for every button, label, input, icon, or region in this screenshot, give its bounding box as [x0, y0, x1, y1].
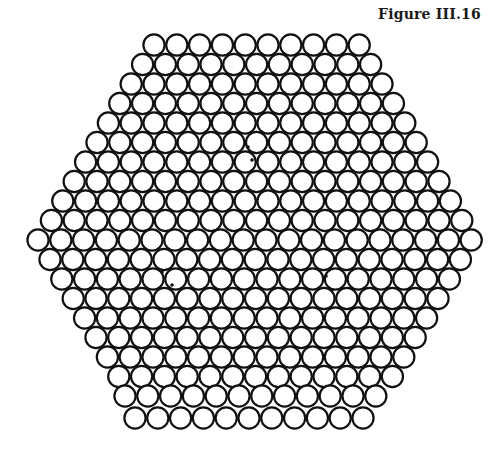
defect-mark [330, 288, 334, 292]
bubble [349, 112, 370, 133]
bubble [199, 366, 220, 387]
bubble [96, 229, 117, 250]
bubble [291, 327, 312, 348]
bubble [326, 34, 347, 55]
bubble [301, 229, 322, 250]
bubble [132, 54, 153, 75]
bubble [405, 327, 426, 348]
bubble [291, 288, 312, 309]
bubble [314, 132, 335, 153]
bubble [222, 366, 243, 387]
bubble [211, 346, 232, 367]
bubble [268, 366, 289, 387]
bubble [314, 171, 335, 192]
bubble [427, 249, 448, 270]
bubble [257, 151, 278, 172]
bubble [360, 171, 381, 192]
bubble [349, 151, 370, 172]
bubble [292, 171, 313, 192]
bubble [417, 151, 438, 172]
bubble [349, 73, 370, 94]
bubble [393, 307, 414, 328]
bubble [141, 229, 162, 250]
bubble [406, 171, 427, 192]
bubble [336, 327, 357, 348]
bubble [428, 171, 449, 192]
bubble [228, 385, 249, 406]
bubble [124, 407, 145, 428]
bubble [137, 385, 158, 406]
bubble [212, 73, 233, 94]
bubble [155, 171, 176, 192]
bubble [223, 54, 244, 75]
bubble [302, 307, 323, 328]
bubble [438, 229, 459, 250]
bubble [313, 249, 334, 270]
bubble [235, 151, 256, 172]
bubble [359, 249, 380, 270]
bubble [427, 288, 448, 309]
bubble [280, 190, 301, 211]
bubble [382, 288, 403, 309]
bubble [132, 171, 153, 192]
bubble [166, 190, 187, 211]
bubble [359, 366, 380, 387]
bubble [256, 268, 277, 289]
bubble [166, 34, 187, 55]
bubble [166, 73, 187, 94]
bubble [199, 327, 220, 348]
bubble [166, 151, 187, 172]
bubble [337, 132, 358, 153]
bubble [193, 407, 214, 428]
bubble [200, 171, 221, 192]
bubble [406, 210, 427, 231]
bubble [269, 93, 290, 114]
bubble [178, 93, 199, 114]
bubble [170, 407, 191, 428]
bubble [325, 346, 346, 367]
bubble [199, 249, 220, 270]
bubble [439, 268, 460, 289]
bubble [235, 34, 256, 55]
bubble [120, 346, 141, 367]
bubble [268, 327, 289, 348]
bubble [245, 288, 266, 309]
bubble [74, 307, 95, 328]
bubble [177, 288, 198, 309]
bubble [164, 229, 185, 250]
bubble [132, 210, 153, 231]
bubble [189, 73, 210, 94]
bubble [235, 112, 256, 133]
bubble [245, 249, 266, 270]
bubble [222, 249, 243, 270]
bubble [165, 307, 186, 328]
bubble [212, 190, 233, 211]
bubble [348, 307, 369, 328]
bubble [451, 210, 472, 231]
bubble [337, 54, 358, 75]
bubble [314, 93, 335, 114]
bubble [160, 385, 181, 406]
bubble [383, 93, 404, 114]
bubble [302, 346, 323, 367]
bubble [154, 327, 175, 348]
bubble [165, 346, 186, 367]
bubble [211, 268, 232, 289]
bubble [325, 268, 346, 289]
bubble [269, 171, 290, 192]
bubble [52, 190, 73, 211]
bubble [216, 407, 237, 428]
bubble [222, 327, 243, 348]
bubble [108, 288, 129, 309]
bubble [210, 229, 231, 250]
bubble [121, 112, 142, 133]
bubble [297, 385, 318, 406]
bubble [132, 132, 153, 153]
bubble [415, 229, 436, 250]
defect-mark [246, 145, 250, 149]
bubble [178, 54, 199, 75]
bubble [75, 151, 96, 172]
bubble [234, 268, 255, 289]
bubble [143, 151, 164, 172]
bubble [314, 210, 335, 231]
